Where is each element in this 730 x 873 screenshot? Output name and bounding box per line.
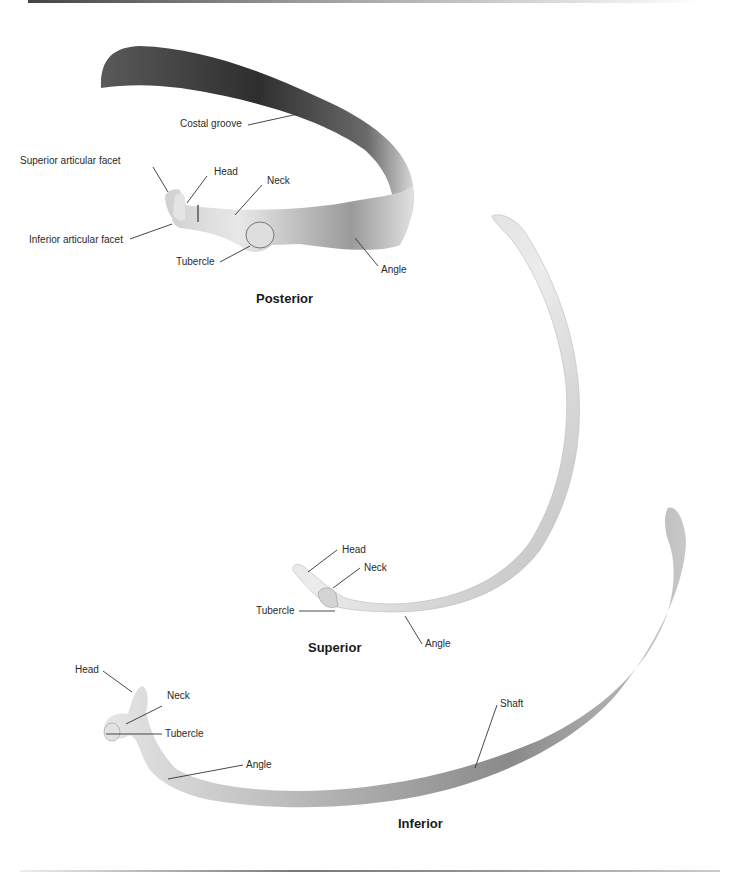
- view-title-inferior: Inferior: [398, 816, 443, 831]
- label-tubercle-inferior: Tubercle: [165, 728, 204, 740]
- bottom-rule: [20, 870, 720, 872]
- label-neck-inferior: Neck: [167, 690, 190, 702]
- label-inferior-articular-facet: Inferior articular facet: [29, 234, 123, 246]
- label-tubercle-posterior: Tubercle: [176, 256, 215, 268]
- superior-rib: [293, 215, 580, 612]
- rib-anatomy-figure: Costal groove Superior articular facet H…: [0, 0, 730, 873]
- label-tubercle-superior: Tubercle: [256, 605, 295, 617]
- inferior-rib: [104, 508, 686, 808]
- label-angle-inferior: Angle: [246, 759, 272, 771]
- label-head-posterior: Head: [214, 166, 238, 178]
- label-costal-groove: Costal groove: [180, 118, 242, 130]
- label-shaft-inferior: Shaft: [500, 698, 523, 710]
- label-head-inferior: Head: [75, 664, 99, 676]
- label-head-superior: Head: [342, 544, 366, 556]
- view-title-superior: Superior: [308, 640, 361, 655]
- label-angle-superior: Angle: [425, 638, 451, 650]
- label-neck-superior: Neck: [364, 562, 387, 574]
- label-superior-articular-facet: Superior articular facet: [20, 155, 121, 167]
- rib-illustrations: [0, 0, 730, 873]
- view-title-posterior: Posterior: [256, 291, 313, 306]
- label-neck-posterior: Neck: [267, 175, 290, 187]
- posterior-rib: [101, 46, 414, 252]
- label-angle-posterior: Angle: [381, 264, 407, 276]
